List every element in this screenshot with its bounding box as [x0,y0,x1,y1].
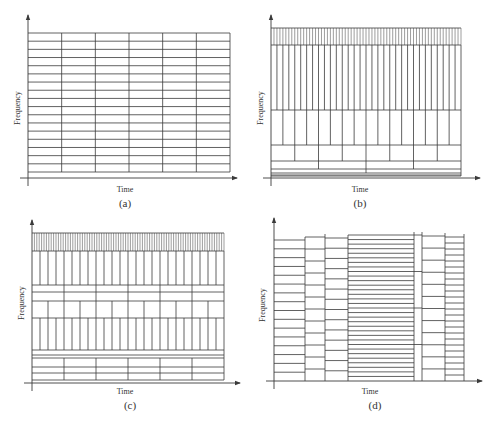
clipped-figure-caption [280,418,490,424]
panel-caption: (d) [369,399,382,412]
panel-d-adaptive-segmentation-tiling: TimeFrequency(d) [258,218,482,412]
frequency-axis-label: Frequency [13,91,22,125]
time-axis-label: Time [117,185,134,194]
panel-caption: (b) [354,197,367,210]
panel-caption: (c) [124,399,137,412]
time-axis-label: Time [362,387,379,396]
time-axis-label: Time [117,387,134,396]
frequency-axis-label: Frequency [256,91,265,125]
frequency-axis-label: Frequency [17,286,26,320]
panel-b-dyadic-tiling: TimeFrequency(b) [256,15,480,210]
panel-c-wavelet-packet-tiling: TimeFrequency(c) [17,220,240,412]
frequency-axis-label: Frequency [258,288,267,322]
panel-a-uniform-tiling: TimeFrequency(a) [13,15,237,210]
time-frequency-tiling-figure: TimeFrequency(a) TimeFrequency(b) TimeFr… [0,0,495,424]
time-axis-label: Time [352,185,369,194]
panel-caption: (a) [119,197,132,210]
